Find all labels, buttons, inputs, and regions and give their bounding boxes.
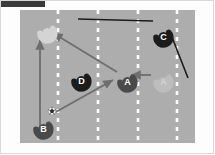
player-letter-c-top-right: C bbox=[157, 33, 169, 42]
coach-line-horizontal bbox=[78, 19, 153, 21]
player-letter-a-mid-right: A bbox=[157, 78, 169, 87]
pass-arrow-a-to-b-top bbox=[53, 33, 117, 72]
player-letter-b-top: B bbox=[41, 29, 53, 38]
pitch: BCDAAB bbox=[20, 10, 195, 143]
marker-lines-group bbox=[78, 19, 188, 78]
soccer-ball bbox=[48, 107, 56, 115]
player-letter-d-mid-left: D bbox=[75, 77, 87, 86]
players-group bbox=[36, 28, 171, 137]
caption-bar bbox=[1, 1, 45, 7]
diagram-root: BCDAAB B C D A A B bbox=[0, 0, 215, 155]
player-letter-a-mid: A bbox=[121, 78, 133, 87]
player-letter-b-bottom-left: B bbox=[37, 125, 49, 134]
